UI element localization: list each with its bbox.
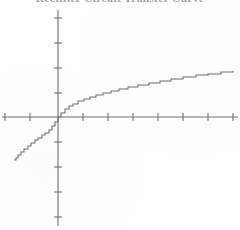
axes-group xyxy=(2,10,238,226)
figure-canvas: Rectifier Circuit Transfer Curve xyxy=(0,0,240,230)
plot-area xyxy=(0,0,240,230)
data-curve xyxy=(14,71,233,160)
